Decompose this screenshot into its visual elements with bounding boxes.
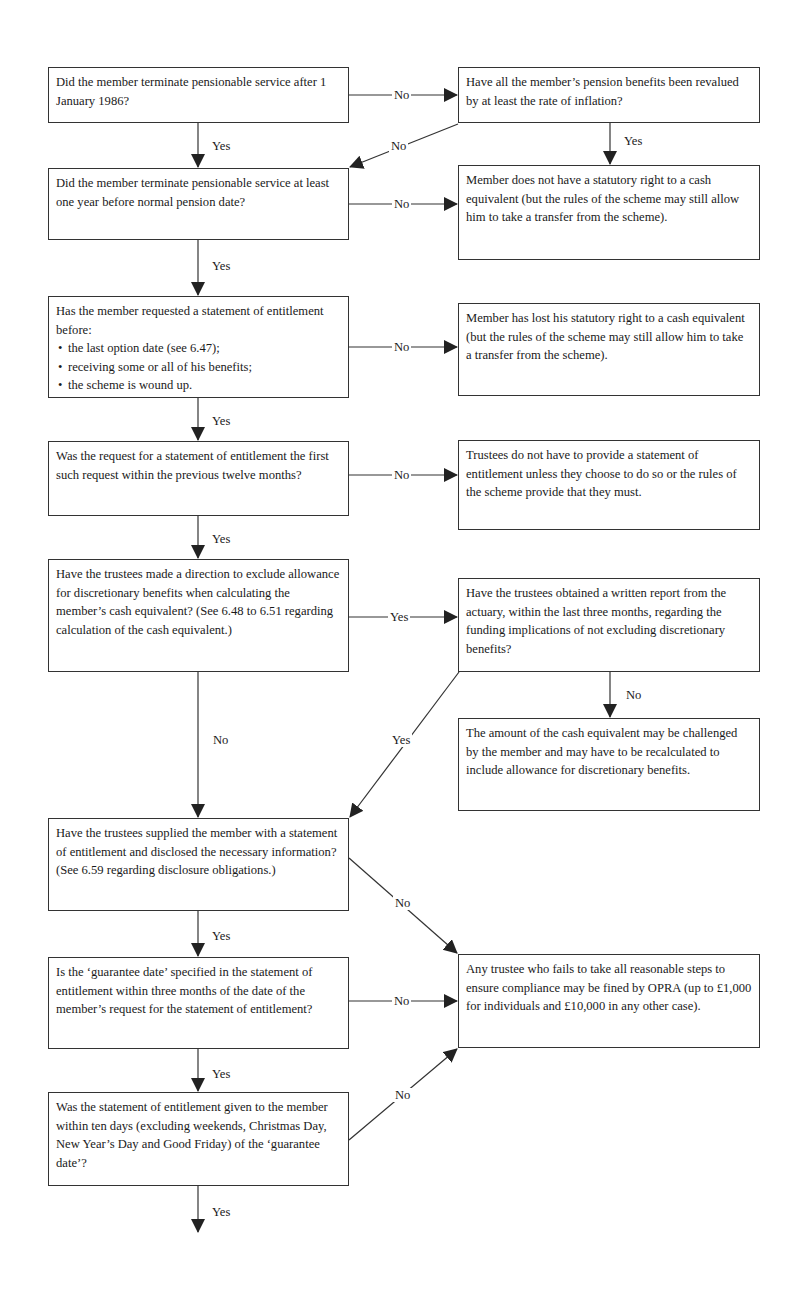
decision-exclude-discretionary-benefits: Have the trustees made a direction to ex… — [48, 559, 349, 672]
outcome-lost-statutory-right: Member has lost his statutory right to a… — [458, 303, 760, 396]
box-text: The amount of the cash equivalent may be… — [466, 726, 737, 777]
label-q6-yes: Yes — [210, 929, 232, 943]
label-q7-no: No — [392, 994, 411, 1008]
decision-requested-statement: Has the member requested a statement of … — [48, 296, 349, 398]
label-q4-no: No — [392, 468, 411, 482]
label-q8-no: No — [393, 1088, 412, 1102]
box-text: Is the ‘guarantee date’ specified in the… — [56, 965, 312, 1016]
box-text: Have the trustees obtained a written rep… — [466, 586, 726, 656]
label-q5-yes: Yes — [388, 610, 410, 624]
box-text: Any trustee who fails to take all reason… — [466, 962, 751, 1013]
outcome-no-statutory-right: Member does not have a statutory right t… — [458, 165, 760, 260]
label-q1no-no: No — [389, 139, 408, 153]
decision-first-request-twelve-months: Was the request for a statement of entit… — [48, 441, 349, 516]
decision-benefits-revalued: Have all the member’s pension benefits b… — [458, 67, 760, 123]
box-text: Have the trustees supplied the member wi… — [56, 826, 337, 877]
box-text: Was the statement of entitlement given t… — [56, 1100, 328, 1170]
label-q8-yes: Yes — [210, 1205, 232, 1219]
label-q2-yes: Yes — [210, 259, 232, 273]
label-q1no-yes: Yes — [622, 134, 644, 148]
box-text: Member has lost his statutory right to a… — [466, 311, 745, 362]
decision-statement-within-ten-days: Was the statement of entitlement given t… — [48, 1092, 349, 1186]
decision-terminated-after-1986: Did the member terminate pensionable ser… — [48, 67, 349, 123]
box-text: Have all the member’s pension benefits b… — [466, 75, 739, 108]
condition-list: the last option date (see 6.47); receivi… — [56, 339, 341, 395]
box-text: Have the trustees made a direction to ex… — [56, 567, 339, 637]
label-q1-no: No — [392, 88, 411, 102]
condition-item: the last option date (see 6.47); — [56, 339, 341, 358]
outcome-may-be-recalculated: The amount of the cash equivalent may be… — [458, 718, 760, 811]
outcome-opra-fine: Any trustee who fails to take all reason… — [458, 954, 760, 1048]
label-q2-no: No — [392, 197, 411, 211]
condition-item: receiving some or all of his benefits; — [56, 358, 341, 377]
box-text: Was the request for a statement of entit… — [56, 449, 329, 482]
outcome-no-statement-required: Trustees do not have to provide a statem… — [458, 440, 760, 530]
box-text: Did the member terminate pensionable ser… — [56, 176, 329, 209]
box-text: Did the member terminate pensionable ser… — [56, 75, 326, 108]
decision-actuary-report: Have the trustees obtained a written rep… — [458, 578, 760, 672]
label-q6-no: No — [393, 896, 412, 910]
decision-guarantee-date-within-three-months: Is the ‘guarantee date’ specified in the… — [48, 957, 349, 1049]
label-q1-yes: Yes — [210, 139, 232, 153]
decision-terminated-one-year-before-npd: Did the member terminate pensionable ser… — [48, 168, 349, 240]
box-text: Trustees do not have to provide a statem… — [466, 448, 737, 499]
label-q5yes-yes: Yes — [390, 733, 412, 747]
label-q3-yes: Yes — [210, 414, 232, 428]
label-q3-no: No — [392, 340, 411, 354]
condition-item: the scheme is wound up. — [56, 376, 341, 395]
label-q5yes-no: No — [624, 688, 643, 702]
label-q4-yes: Yes — [210, 532, 232, 546]
box-text: Has the member requested a statement of … — [56, 302, 341, 339]
box-text: Member does not have a statutory right t… — [466, 173, 739, 224]
label-q5-no: No — [211, 733, 230, 747]
label-q7-yes: Yes — [210, 1067, 232, 1081]
decision-statement-supplied: Have the trustees supplied the member wi… — [48, 818, 349, 911]
